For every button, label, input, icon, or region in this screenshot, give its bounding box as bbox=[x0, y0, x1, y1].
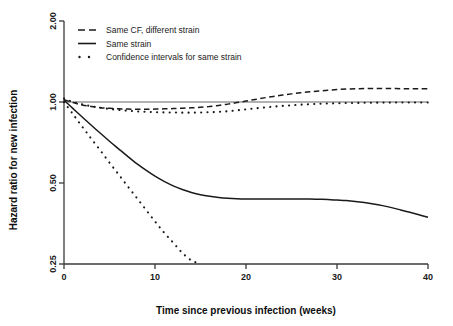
y-tick-label: 0.50 bbox=[48, 174, 58, 192]
hazard-ratio-chart: 0.250.501.002.00 010203040 Time since pr… bbox=[0, 0, 453, 326]
x-tick-label: 30 bbox=[332, 272, 342, 282]
legend-label: Confidence intervals for same strain bbox=[106, 52, 242, 62]
x-axis-title: Time since previous infection (weeks) bbox=[156, 305, 336, 316]
x-tick-label: 10 bbox=[150, 272, 160, 282]
legend-dot-swatch bbox=[88, 56, 90, 58]
legend-label: Same strain bbox=[106, 39, 152, 49]
x-tick-label: 40 bbox=[423, 272, 433, 282]
y-tick-label: 2.00 bbox=[48, 12, 58, 30]
figure-container: 0.250.501.002.00 010203040 Time since pr… bbox=[0, 0, 453, 326]
x-tick-label: 0 bbox=[61, 272, 66, 282]
legend-dot-swatch bbox=[78, 56, 80, 58]
y-tick-label: 0.25 bbox=[48, 255, 58, 273]
chart-background bbox=[0, 0, 453, 326]
legend-label: Same CF, different strain bbox=[106, 25, 200, 35]
x-tick-label: 20 bbox=[241, 272, 251, 282]
y-axis-title: Hazard ratio for new infection bbox=[8, 90, 19, 231]
y-tick-label: 1.00 bbox=[48, 93, 58, 111]
